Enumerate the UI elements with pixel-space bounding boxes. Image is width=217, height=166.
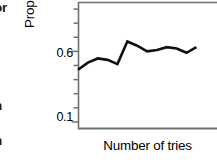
figure-container: or n n Proportion of successes Number of… — [0, 0, 217, 166]
y-axis-ticks — [72, 9, 79, 122]
axis-frame — [78, 2, 217, 129]
data-line-series-0 — [78, 42, 196, 70]
plot-area — [0, 0, 217, 166]
